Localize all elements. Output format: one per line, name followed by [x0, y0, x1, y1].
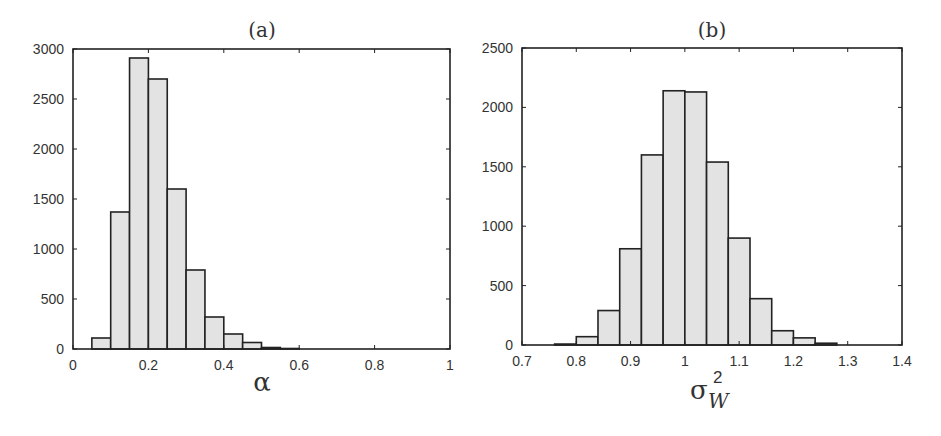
histogram-bar: [243, 343, 262, 350]
y-tick-label: 500: [41, 291, 65, 307]
figure: 00.20.40.60.81050010001500200025003000 (…: [0, 0, 941, 436]
x-tick-label: 0.8: [567, 353, 587, 369]
histogram-bars: [555, 91, 837, 345]
y-tick-label: 3000: [33, 41, 64, 57]
x-axis-label-subscript: W: [708, 389, 730, 413]
y-tick-label: 1000: [33, 241, 64, 257]
x-tick-label: 0.6: [289, 357, 309, 373]
x-axis-label: α: [253, 367, 271, 397]
axis-ticks: 00.20.40.60.81050010001500200025003000: [33, 41, 454, 373]
y-tick-label: 2500: [482, 40, 513, 56]
x-tick-label: 1.4: [892, 353, 912, 369]
histogram-bar: [167, 189, 186, 349]
y-tick-label: 1500: [33, 191, 64, 207]
y-tick-label: 0: [56, 341, 64, 357]
histogram-bar: [750, 299, 772, 345]
histogram-bar: [224, 334, 243, 349]
y-tick-label: 500: [490, 278, 514, 294]
x-tick-label: 0.9: [621, 353, 641, 369]
x-axis-label-superscript: 2: [713, 368, 722, 387]
x-tick-label: 1.2: [784, 353, 804, 369]
histogram-panel-b: 0.70.80.911.11.21.31.4050010001500200025…: [482, 18, 912, 413]
histogram-bars: [92, 58, 299, 349]
histogram-bar: [148, 79, 167, 349]
x-tick-label: 1.1: [729, 353, 749, 369]
histogram-bar: [111, 212, 130, 349]
y-tick-label: 2000: [482, 99, 513, 115]
histogram-bar: [186, 270, 205, 349]
x-tick-label: 1: [446, 357, 454, 373]
x-tick-label: 0.2: [139, 357, 159, 373]
y-tick-label: 1500: [482, 159, 513, 175]
histogram-bar: [793, 338, 815, 345]
histogram-bar: [576, 337, 598, 345]
x-tick-label: 0: [69, 357, 77, 373]
panel-title: (b): [698, 18, 726, 42]
y-tick-label: 2500: [33, 91, 64, 107]
x-tick-label: 0.4: [214, 357, 234, 373]
histogram-bar: [663, 91, 685, 345]
x-tick-label: 1.3: [838, 353, 858, 369]
histogram-bar: [707, 162, 729, 345]
y-tick-label: 1000: [482, 218, 513, 234]
y-tick-label: 2000: [33, 141, 64, 157]
histogram-bar: [92, 338, 111, 349]
x-tick-label: 0.8: [365, 357, 385, 373]
y-tick-label: 0: [505, 337, 513, 353]
histogram-bar: [205, 317, 224, 349]
x-axis-label: σ: [690, 375, 708, 405]
histogram-panel-a: 00.20.40.60.81050010001500200025003000 (…: [33, 18, 454, 397]
histogram-bar: [130, 58, 149, 349]
panel-title: (a): [248, 18, 276, 42]
x-tick-label: 0.7: [512, 353, 532, 369]
histogram-bar: [641, 155, 663, 345]
histogram-bar: [620, 249, 642, 345]
x-tick-label: 1: [681, 353, 689, 369]
histogram-bar: [728, 238, 750, 345]
histogram-bar: [772, 331, 794, 345]
histogram-bar: [598, 311, 620, 345]
histogram-bar: [685, 92, 707, 345]
